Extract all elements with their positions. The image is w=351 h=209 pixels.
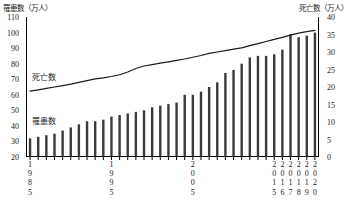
bar-2015	[273, 54, 275, 156]
bar-2016	[281, 50, 283, 157]
right-tick-35: 35	[322, 30, 335, 39]
bar-1985	[29, 138, 31, 156]
bar-2003	[175, 103, 177, 157]
right-axis-unit-label: 死亡数（万人）	[299, 2, 348, 13]
bar-2000	[151, 107, 153, 156]
bar-1998	[135, 112, 137, 157]
x-label-1985: 1985	[26, 160, 34, 197]
bar-2002	[167, 104, 169, 156]
left-tick-30: 30	[11, 137, 23, 146]
bar-2014	[265, 56, 267, 157]
deaths-line	[30, 30, 315, 91]
bar-1995	[110, 117, 112, 157]
x-label-2017: 2017	[287, 160, 295, 197]
x-label-2016: 2016	[278, 160, 286, 197]
bar-2004	[184, 95, 186, 157]
bar-2019	[306, 36, 308, 157]
bar-1987	[45, 135, 47, 156]
x-label-2018: 2018	[295, 160, 303, 197]
right-tick-30: 30	[322, 48, 335, 57]
bar-1990	[70, 127, 72, 156]
bar-2009	[224, 73, 226, 157]
series-label-deaths: 死亡数	[32, 71, 56, 82]
right-tick-15: 15	[322, 100, 335, 109]
right-axis-ticks: 4035302520151050	[322, 17, 350, 157]
left-tick-100: 100	[7, 28, 23, 37]
bar-1993	[94, 121, 96, 156]
right-tick-5: 5	[322, 135, 331, 144]
bar-1999	[143, 110, 145, 156]
right-tick-40: 40	[322, 13, 335, 22]
bar-1988	[53, 134, 55, 157]
bar-1994	[102, 120, 104, 157]
bar-1997	[127, 113, 129, 156]
incidence-deaths-chart: 罹患数（万人） 死亡数（万人） 1101009080706050403020 4…	[0, 0, 351, 209]
bar-2017	[289, 34, 291, 156]
bar-2001	[159, 106, 161, 157]
bar-2008	[216, 82, 218, 156]
bar-1986	[37, 137, 39, 157]
left-tick-60: 60	[11, 90, 23, 99]
bar-1991	[78, 124, 80, 156]
bar-2020	[314, 33, 316, 157]
x-label-2005: 2005	[189, 160, 197, 197]
left-tick-40: 40	[11, 121, 23, 130]
left-tick-80: 80	[11, 59, 23, 68]
bar-2005	[192, 95, 194, 157]
x-label-2019: 2019	[303, 160, 311, 197]
bar-2011	[240, 64, 242, 157]
bar-1992	[86, 121, 88, 156]
bar-1989	[61, 131, 63, 157]
left-tick-50: 50	[11, 106, 23, 115]
right-tick-25: 25	[322, 65, 335, 74]
right-tick-0: 0	[322, 153, 331, 162]
bar-2012	[249, 57, 251, 156]
right-tick-20: 20	[322, 83, 335, 92]
x-label-1995: 1995	[107, 160, 115, 197]
left-tick-90: 90	[11, 44, 23, 53]
left-tick-110: 110	[7, 13, 23, 22]
bar-2006	[200, 92, 202, 157]
bar-2010	[232, 70, 234, 157]
plot-area	[26, 17, 319, 157]
bar-2007	[208, 87, 210, 157]
left-axis-unit-label: 罹患数（万人）	[3, 2, 52, 13]
series-label-incidence: 罹患数	[32, 115, 56, 126]
left-tick-20: 20	[11, 153, 23, 162]
bar-2018	[297, 37, 299, 156]
x-label-2020: 2020	[311, 160, 319, 197]
x-axis-labels: 198519952005201520162017201820192020	[26, 160, 319, 208]
bar-2013	[257, 56, 259, 157]
plot-svg	[26, 17, 319, 160]
right-tick-10: 10	[322, 118, 335, 127]
bar-1996	[118, 115, 120, 157]
left-tick-70: 70	[11, 75, 23, 84]
x-label-2015: 2015	[270, 160, 278, 197]
left-axis-ticks: 1101009080706050403020	[0, 17, 23, 157]
